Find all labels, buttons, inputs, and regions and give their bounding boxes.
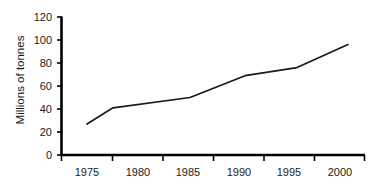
x-tick-label-1975: 1975 xyxy=(67,166,107,178)
line-chart: Millions of tonnes 120 100 80 60 40 20 0… xyxy=(0,0,383,191)
x-tick-label-1990: 1990 xyxy=(219,166,259,178)
y-tick-label-60: 60 xyxy=(26,80,52,92)
x-tick-label-2000: 2000 xyxy=(320,166,360,178)
data-series-line xyxy=(87,45,348,124)
x-tick-label-1980: 1980 xyxy=(118,166,158,178)
y-axis-title: Millions of tonnes xyxy=(14,15,26,145)
chart-plot-area xyxy=(0,0,383,191)
x-tick-label-1985: 1985 xyxy=(168,166,208,178)
y-tick-label-40: 40 xyxy=(26,103,52,115)
y-tick-label-0: 0 xyxy=(26,149,52,161)
x-tick-label-1995: 1995 xyxy=(269,166,309,178)
y-tick-label-80: 80 xyxy=(26,57,52,69)
y-tick-label-100: 100 xyxy=(26,34,52,46)
y-tick-label-120: 120 xyxy=(26,11,52,23)
y-tick-label-20: 20 xyxy=(26,126,52,138)
